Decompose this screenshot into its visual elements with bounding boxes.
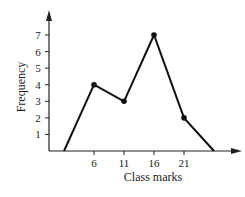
data-point-marker: [91, 82, 97, 88]
y-tick-label: 4: [35, 79, 41, 91]
y-tick-label: 7: [35, 29, 41, 41]
x-tick-label: 6: [91, 157, 97, 169]
y-tick-label: 5: [35, 62, 41, 74]
y-tick-label: 6: [35, 46, 41, 58]
frequency-polygon-chart: 1234567 6111621 Class marks Frequency: [0, 0, 245, 197]
x-axis-label: Class marks: [124, 170, 183, 184]
y-tick-label: 3: [35, 95, 41, 107]
x-tick-label: 16: [149, 157, 161, 169]
y-ticks: 1234567: [35, 29, 49, 140]
frequency-polygon-line: [64, 35, 214, 151]
data-point-marker: [121, 98, 127, 104]
x-tick-label: 21: [179, 157, 190, 169]
data-points: [91, 32, 187, 120]
data-point-marker: [151, 32, 157, 38]
y-tick-label: 1: [35, 128, 41, 140]
y-axis-arrow-icon: [46, 10, 52, 21]
data-point-marker: [181, 115, 187, 121]
x-axis-arrow-icon: [231, 148, 242, 154]
x-tick-label: 11: [119, 157, 130, 169]
y-axis-label: Frequency: [14, 62, 28, 113]
x-ticks: 6111621: [91, 151, 189, 169]
y-tick-label: 2: [35, 112, 41, 124]
